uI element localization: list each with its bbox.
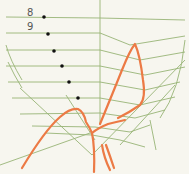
guide-dots bbox=[42, 15, 80, 100]
guide-dot bbox=[67, 80, 71, 84]
guide-dot bbox=[76, 96, 80, 100]
guide-dot bbox=[52, 49, 56, 53]
orange-thread bbox=[22, 44, 144, 172]
guide-dot bbox=[42, 15, 46, 19]
guide-dot bbox=[46, 32, 50, 36]
string-art-figure: 8 9 bbox=[0, 0, 189, 174]
point-label-8: 8 bbox=[27, 8, 33, 18]
point-label-9: 9 bbox=[27, 22, 33, 32]
guide-dot bbox=[60, 64, 64, 68]
